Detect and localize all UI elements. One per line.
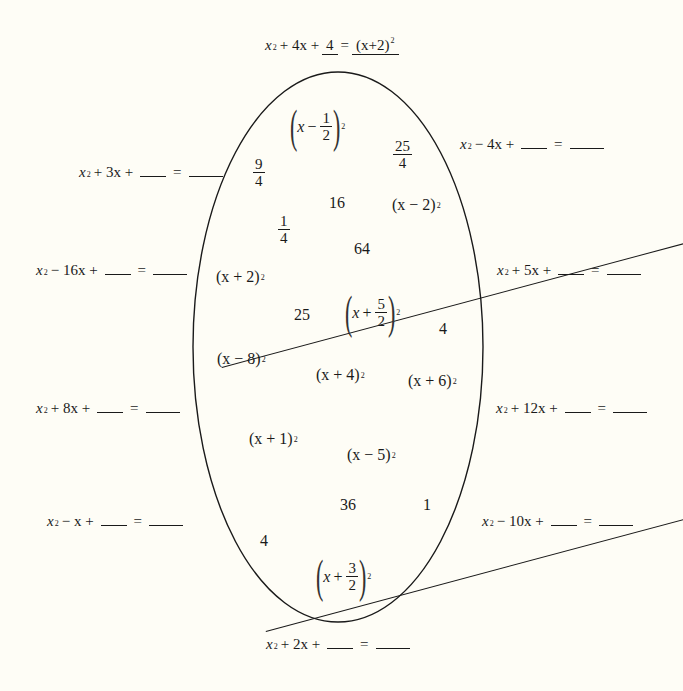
problem-2: x2 − 16x + =	[36, 262, 191, 279]
constant-blank[interactable]	[105, 273, 131, 275]
bank-x-plus-2-sq-crossed[interactable]: (x + 2)2	[216, 268, 683, 286]
constant-blank[interactable]	[521, 147, 547, 149]
problem-4: x2 − x + =	[47, 513, 187, 530]
bank-64[interactable]: 64	[354, 240, 370, 258]
factored-blank[interactable]	[146, 411, 180, 413]
bank-x-plus-3-half-sq[interactable]: (x+ 32)2	[316, 560, 371, 593]
constant-blank[interactable]	[565, 411, 591, 413]
x-var: x	[265, 37, 272, 54]
problem-3: x2 + 8x + =	[36, 400, 184, 417]
bank-4-crossed[interactable]: 4	[260, 532, 683, 550]
bank-x-minus-2-sq[interactable]: (x − 2)2	[392, 196, 441, 214]
bank-x-plus-1-sq[interactable]: (x + 1)2	[249, 430, 298, 448]
example-equation: x2 + 4x + 4 = (x+2)2	[265, 36, 399, 55]
bank-x-minus-8-sq[interactable]: (x − 8)2	[217, 350, 266, 368]
problem-1: x2 + 3x + =	[79, 164, 227, 181]
factored-blank[interactable]	[189, 175, 223, 177]
problem-7: x2 + 12x + =	[496, 400, 651, 417]
bank-1[interactable]: 1	[423, 496, 431, 514]
bank-x-plus-4-sq[interactable]: (x + 4)2	[316, 366, 365, 384]
bank-16[interactable]: 16	[329, 194, 345, 212]
factored-blank[interactable]	[153, 273, 187, 275]
constant-blank[interactable]	[97, 411, 123, 413]
bank-25-over-4[interactable]: 254	[392, 138, 413, 171]
bank-9-over-4[interactable]: 94	[252, 156, 266, 189]
bank-1-over-4[interactable]: 14	[277, 213, 291, 246]
bank-4[interactable]: 4	[439, 320, 447, 338]
bank-x-plus-6-sq[interactable]: (x + 6)2	[408, 372, 457, 390]
example-middle: + 4x +	[280, 37, 319, 54]
constant-blank[interactable]	[101, 524, 127, 526]
factored-blank[interactable]	[376, 647, 410, 649]
factored-blank[interactable]	[149, 524, 183, 526]
bank-x-minus-5-sq[interactable]: (x − 5)2	[347, 446, 396, 464]
problem-8: x2 − 10x + =	[482, 513, 637, 530]
constant-blank[interactable]	[551, 524, 577, 526]
problem-5: x2 − 4x + =	[460, 136, 608, 153]
factored-blank[interactable]	[570, 147, 604, 149]
constant-blank[interactable]	[327, 647, 353, 649]
factored-blank[interactable]	[613, 411, 647, 413]
example-answer-constant: 4	[322, 37, 338, 55]
example-answer-square: (x+2)2	[352, 36, 398, 55]
constant-blank[interactable]	[140, 175, 166, 177]
problem-9: x2 + 2x + =	[266, 636, 414, 653]
bank-25[interactable]: 25	[294, 306, 310, 324]
bank-36[interactable]: 36	[340, 496, 356, 514]
factored-blank[interactable]	[599, 524, 633, 526]
bank-x-minus-half-sq[interactable]: (x− 12)2	[290, 110, 345, 143]
bank-x-plus-5-half-sq[interactable]: (x+ 52)2	[345, 296, 400, 329]
